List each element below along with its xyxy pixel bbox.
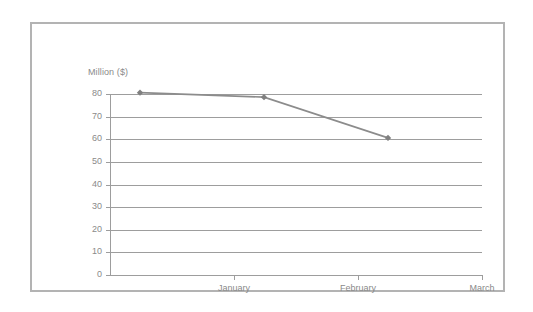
y-tick-mark-0 bbox=[106, 275, 110, 276]
x-tick-mark-february bbox=[358, 275, 359, 280]
gridline-50 bbox=[110, 162, 482, 163]
y-axis-line bbox=[110, 94, 111, 276]
y-tick-label-50: 50 bbox=[76, 156, 102, 166]
gridline-0 bbox=[110, 275, 482, 276]
y-tick-mark-40 bbox=[106, 185, 110, 186]
y-tick-mark-70 bbox=[106, 117, 110, 118]
gridline-10 bbox=[110, 252, 482, 253]
y-tick-mark-80 bbox=[106, 94, 110, 95]
gridline-80 bbox=[110, 94, 482, 95]
gridline-70 bbox=[110, 117, 482, 118]
y-axis-tick-labels: 80 70 60 50 40 30 20 10 0 bbox=[76, 94, 102, 275]
plot-area bbox=[110, 94, 482, 275]
gridline-60 bbox=[110, 139, 482, 140]
y-tick-label-10: 10 bbox=[76, 246, 102, 256]
y-axis-title: Million ($) bbox=[88, 67, 128, 77]
y-tick-label-60: 60 bbox=[76, 133, 102, 143]
gridline-30 bbox=[110, 207, 482, 208]
y-tick-label-70: 70 bbox=[76, 111, 102, 121]
y-tick-label-0: 0 bbox=[76, 269, 102, 279]
y-tick-label-30: 30 bbox=[76, 201, 102, 211]
x-tick-label-february: February bbox=[340, 283, 376, 293]
x-tick-label-january: January bbox=[218, 283, 250, 293]
y-tick-mark-60 bbox=[106, 139, 110, 140]
x-tick-mark-january bbox=[234, 275, 235, 280]
y-tick-mark-10 bbox=[106, 252, 110, 253]
y-tick-mark-20 bbox=[106, 230, 110, 231]
y-tick-label-20: 20 bbox=[76, 224, 102, 234]
x-tick-mark-march bbox=[482, 275, 483, 280]
y-tick-mark-50 bbox=[106, 162, 110, 163]
gridline-20 bbox=[110, 230, 482, 231]
y-tick-label-40: 40 bbox=[76, 179, 102, 189]
chart-screenshot: Million ($) 80 70 60 50 40 30 bbox=[0, 0, 533, 312]
y-tick-label-80: 80 bbox=[76, 88, 102, 98]
gridline-40 bbox=[110, 185, 482, 186]
y-tick-mark-30 bbox=[106, 207, 110, 208]
x-tick-label-march: March bbox=[469, 283, 494, 293]
chart-frame: Million ($) 80 70 60 50 40 30 bbox=[30, 22, 505, 292]
